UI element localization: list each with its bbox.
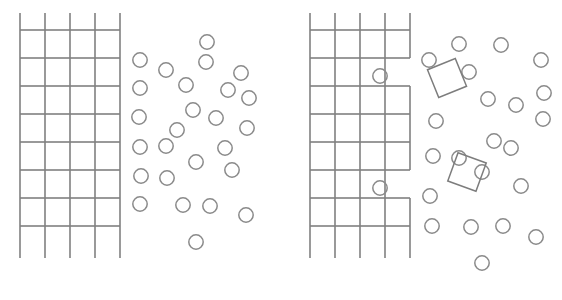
particle-circle (494, 38, 508, 52)
particle-circle (159, 63, 173, 77)
particle-circle (504, 141, 518, 155)
figure-root (0, 0, 562, 300)
particle-circle (534, 53, 548, 67)
particle-circle (209, 111, 223, 125)
particle-circle (186, 103, 200, 117)
particle-circle (422, 53, 436, 67)
particle-circle (200, 35, 214, 49)
particle-circle (240, 121, 254, 135)
inclusion-squares-right (427, 58, 486, 191)
particle-circle (179, 78, 193, 92)
particle-circle (423, 189, 437, 203)
particle-circle (496, 219, 510, 233)
particle-circle (189, 235, 203, 249)
left-panel-canvas (0, 0, 281, 300)
particle-circle (429, 114, 443, 128)
particle-circle (134, 169, 148, 183)
particle-circle (536, 112, 550, 126)
particle-cloud-left (132, 35, 256, 249)
inclusion-square-lower (448, 153, 486, 191)
particle-circle (159, 139, 173, 153)
particle-circle (133, 53, 147, 67)
particle-circle (475, 165, 489, 179)
lattice-grid-right (310, 13, 410, 258)
particle-circle (189, 155, 203, 169)
caption-strip (0, 292, 562, 300)
particle-circle (452, 37, 466, 51)
particle-circle (537, 86, 551, 100)
right-panel-canvas (281, 0, 562, 300)
particle-circle (475, 256, 489, 270)
particle-circle (199, 55, 213, 69)
particle-circle (218, 141, 232, 155)
particle-circle (203, 199, 217, 213)
particle-circle (242, 91, 256, 105)
lattice-grid-left (20, 13, 120, 258)
particle-circle (426, 149, 440, 163)
particle-circle (221, 83, 235, 97)
particle-circle (487, 134, 501, 148)
inclusion-square-upper (427, 58, 466, 97)
particle-circle (239, 208, 253, 222)
particle-circle (170, 123, 184, 137)
particle-circle (234, 66, 248, 80)
particle-circle (529, 230, 543, 244)
particle-circle (176, 198, 190, 212)
particle-circle (133, 140, 147, 154)
particle-circle (160, 171, 174, 185)
particle-circle (425, 219, 439, 233)
particle-circle (133, 81, 147, 95)
particle-circle (481, 92, 495, 106)
particle-circle (225, 163, 239, 177)
left-panel (0, 0, 281, 300)
particle-circle (133, 197, 147, 211)
particle-circle (132, 110, 146, 124)
particle-circle (464, 220, 478, 234)
particle-circle (462, 65, 476, 79)
particle-circle (514, 179, 528, 193)
particle-circle (509, 98, 523, 112)
right-panel (281, 0, 562, 300)
